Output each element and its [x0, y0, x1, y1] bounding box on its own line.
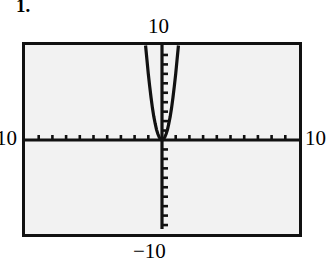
plot-area [25, 45, 299, 234]
y-axis-min-label: −10 [133, 241, 166, 262]
calculator-screen [22, 42, 302, 237]
x-axis-max-label: 10 [305, 128, 326, 149]
calculator-screen-inner [25, 45, 299, 234]
graphing-calculator-figure: 1. 10 10 10 −10 [0, 0, 327, 277]
x-axis-min-label: 10 [0, 128, 17, 149]
y-axis-max-label: 10 [148, 16, 169, 37]
problem-number-label: 1. [16, 0, 30, 15]
